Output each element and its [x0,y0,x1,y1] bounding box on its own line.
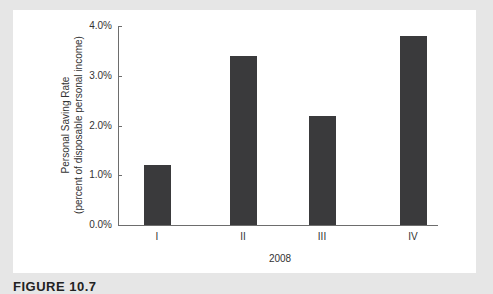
y-tick-label: 1.0% [62,170,112,180]
bar-ii [230,56,257,225]
x-axis-title: 2008 [254,253,306,264]
x-axis [118,225,438,226]
y-tick-label: 2.0% [62,121,112,131]
bar-iv [400,36,427,225]
y-tick-label: 3.0% [62,71,112,81]
y-tick-label: 0.0% [62,220,112,230]
x-category-label: I [137,231,177,242]
x-category-label: II [223,231,263,242]
x-category-label: III [302,231,342,242]
y-tick [118,126,122,127]
y-tick [118,26,122,27]
y-tick [118,225,122,226]
y-tick [118,76,122,77]
y-tick-label: 4.0% [62,21,112,31]
x-category-label: IV [393,231,433,242]
figure-caption: FIGURE 10.7 [13,279,97,294]
bar-iii [309,116,336,225]
y-tick [118,175,122,176]
bar-i [144,165,171,225]
